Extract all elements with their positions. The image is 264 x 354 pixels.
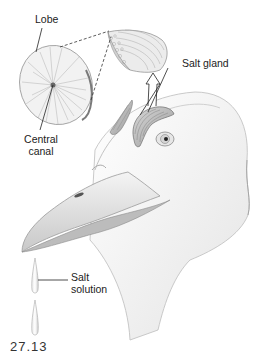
label-central-canal: Central canal	[18, 133, 64, 157]
gland-section-magnified	[108, 30, 167, 72]
label-lobe: Lobe	[35, 13, 58, 25]
bird-eye	[156, 132, 174, 146]
label-salt-solution-line1: Salt	[71, 271, 107, 283]
salt-droplets	[32, 258, 39, 335]
label-central-canal-line2: canal	[18, 145, 64, 157]
label-salt-solution-line2: solution	[71, 283, 107, 295]
droplet-1	[32, 258, 39, 293]
label-salt-solution: Salt solution	[71, 271, 107, 295]
label-central-canal-line1: Central	[18, 133, 64, 145]
figure-number-fragment: 27.13	[10, 339, 48, 354]
droplet-2	[32, 300, 39, 335]
lobe-cross-section	[8, 35, 103, 135]
label-salt-gland: Salt gland	[182, 57, 229, 69]
